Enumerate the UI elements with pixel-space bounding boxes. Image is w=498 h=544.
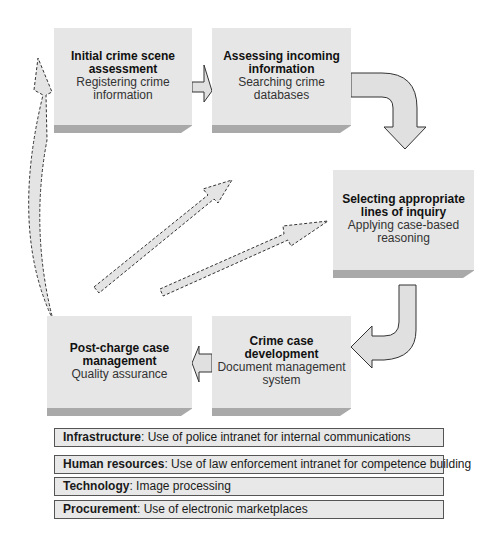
box-shade <box>212 125 351 133</box>
activity-subtitle: Searching crime <box>238 76 325 89</box>
arrow-assessing-to-selecting <box>351 73 426 149</box>
support-activity-human-resources: Human resources: Use of law enforcement … <box>54 455 444 474</box>
arrow-selecting-to-development <box>351 285 416 368</box>
activity-box-crime-case-development: Crime case development Document manageme… <box>212 316 351 416</box>
box-shade <box>47 408 192 416</box>
box-shade <box>54 125 192 133</box>
activity-subtitle: system <box>262 374 300 387</box>
support-text: : Use of police intranet for internal co… <box>141 430 410 444</box>
support-activity-procurement: Procurement: Use of electronic marketpla… <box>54 500 444 519</box>
activity-subtitle: databases <box>254 89 309 102</box>
activity-box-post-charge-management: Post-charge case management Quality assu… <box>47 316 192 416</box>
support-label: Infrastructure <box>63 430 141 444</box>
arrow-development-to-postcharge <box>192 346 212 382</box>
arrow-initial-to-assessing <box>192 65 212 102</box>
activity-title: Post-charge case <box>70 342 169 355</box>
support-text: : Use of electronic marketplaces <box>137 502 308 516</box>
activity-box-assessing-information: Assessing incoming information Searching… <box>212 28 351 133</box>
support-activity-infrastructure: Infrastructure: Use of police intranet f… <box>54 428 444 447</box>
activity-box-initial-assessment: Initial crime scene assessment Registeri… <box>54 28 192 133</box>
support-label: Human resources <box>63 457 164 471</box>
activity-subtitle: reasoning <box>377 232 430 245</box>
activity-title: assessment <box>89 63 158 76</box>
activity-title: Initial crime scene <box>71 50 175 63</box>
support-text: : Use of law enforcement intranet for co… <box>164 457 471 471</box>
activity-subtitle: information <box>93 89 152 102</box>
value-chain-diagram: Initial crime scene assessment Registeri… <box>0 0 498 544</box>
support-label: Procurement <box>63 502 137 516</box>
box-shade <box>212 408 351 416</box>
activity-title: information <box>249 63 315 76</box>
support-activity-technology: Technology: Image processing <box>54 477 444 496</box>
activity-title: Assessing incoming <box>223 50 340 63</box>
support-text: : Image processing <box>129 479 230 493</box>
box-shade <box>333 270 474 278</box>
arrow-postcharge-to-assessing <box>94 180 232 293</box>
activity-subtitle: Quality assurance <box>71 368 167 381</box>
arrow-postcharge-to-selecting <box>160 221 328 296</box>
activity-title: Crime case development <box>212 335 351 361</box>
activity-box-selecting-lines-of-inquiry: Selecting appropriate lines of inquiry A… <box>333 170 474 278</box>
arrow-postcharge-to-initial <box>29 58 53 320</box>
activity-subtitle: Registering crime <box>76 76 169 89</box>
activity-title: management <box>82 355 156 368</box>
support-label: Technology <box>63 479 129 493</box>
